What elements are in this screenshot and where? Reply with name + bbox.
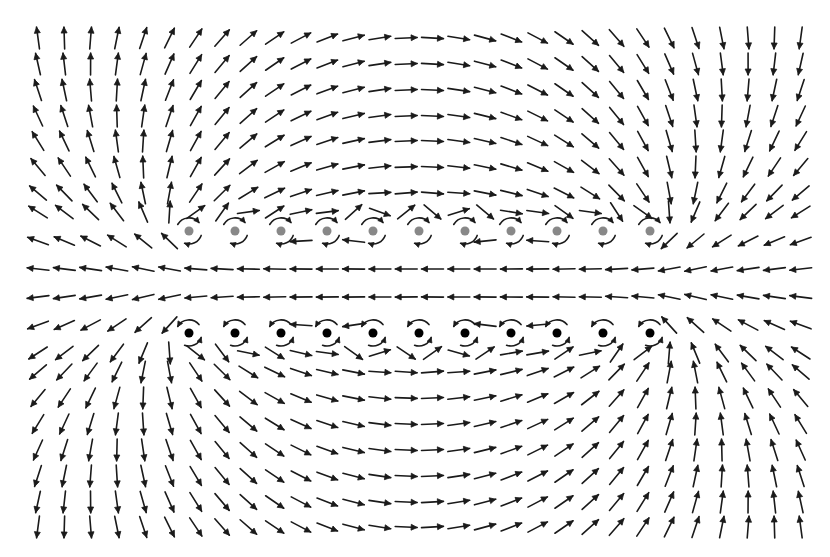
arrow-icon xyxy=(240,520,257,535)
arrow-icon xyxy=(395,61,417,67)
arrow-icon xyxy=(53,265,75,271)
arrow-icon xyxy=(555,58,573,71)
arrow-icon xyxy=(140,491,147,512)
arrow-icon xyxy=(317,421,338,429)
arrow-icon xyxy=(141,439,147,461)
arrow-icon xyxy=(582,57,598,72)
arrow-icon xyxy=(693,79,699,101)
arrow-icon xyxy=(27,295,49,301)
arrow-icon xyxy=(582,520,598,535)
arrow-icon xyxy=(501,164,522,171)
arrow-icon xyxy=(746,516,752,538)
gray-vortex-dot xyxy=(415,227,424,236)
arrow-icon xyxy=(370,208,391,216)
arrow-icon xyxy=(742,363,755,381)
arrow-icon xyxy=(582,443,598,458)
arrow-icon xyxy=(190,55,202,74)
gray-vortex-dot xyxy=(461,227,470,236)
arrow-icon xyxy=(790,237,811,245)
arrow-icon xyxy=(687,318,703,333)
arrow-icon xyxy=(31,159,45,176)
arrow-icon xyxy=(34,53,40,74)
vector-field-diagram xyxy=(0,0,830,557)
arrow-icon xyxy=(796,106,805,126)
arrow-icon xyxy=(691,343,700,363)
arrow-icon xyxy=(369,60,391,66)
arrow-icon xyxy=(187,346,204,360)
arrow-icon xyxy=(501,190,522,197)
arrow-icon xyxy=(474,165,496,171)
vortex-circulation-arcs xyxy=(178,217,663,346)
arrow-icon xyxy=(448,294,470,300)
arrow-icon xyxy=(185,266,207,272)
arrow-icon xyxy=(240,443,256,458)
arrow-icon xyxy=(476,347,494,359)
arrow-icon xyxy=(290,322,312,328)
arrow-icon xyxy=(501,522,521,531)
arrow-icon xyxy=(743,157,753,177)
arrow-icon xyxy=(317,112,338,120)
arrow-icon xyxy=(343,447,364,454)
arrow-icon xyxy=(501,349,523,355)
arc-arrowhead-icon xyxy=(470,217,475,223)
arrow-icon xyxy=(343,499,364,506)
arrow-icon xyxy=(555,347,573,359)
arrow-icon xyxy=(474,294,496,300)
black-vortex-dot xyxy=(461,329,470,338)
arrow-icon xyxy=(719,465,725,487)
arrow-icon xyxy=(665,80,674,101)
arrow-icon xyxy=(528,497,547,507)
arrow-icon xyxy=(664,517,674,537)
arrow-icon xyxy=(395,35,417,41)
arrow-icon xyxy=(316,266,338,272)
arrow-icon xyxy=(713,319,731,331)
arrow-icon xyxy=(291,162,311,171)
arrow-icon xyxy=(88,491,94,513)
arrow-icon xyxy=(369,500,391,506)
arrow-icon xyxy=(113,130,119,152)
arrow-icon xyxy=(28,237,49,245)
black-vortex-dot xyxy=(599,329,608,338)
arrow-icon xyxy=(794,390,808,407)
arrow-icon xyxy=(34,516,40,538)
arrow-icon xyxy=(474,113,495,120)
arrow-icon xyxy=(606,266,628,272)
arrow-icon xyxy=(190,363,202,381)
arrow-icon xyxy=(191,131,202,150)
arrow-icon xyxy=(790,320,811,328)
arc-arrowhead-icon xyxy=(240,217,245,223)
arc-arrowhead-icon xyxy=(424,217,429,223)
arrow-icon xyxy=(692,156,698,178)
arrow-icon xyxy=(477,205,494,219)
arrow-icon xyxy=(397,347,415,359)
arrow-icon xyxy=(290,266,312,272)
arrow-icon xyxy=(369,34,391,40)
arrow-icon xyxy=(422,61,444,67)
arrow-icon xyxy=(140,517,148,538)
field-arrows xyxy=(27,27,812,538)
arrow-icon xyxy=(191,414,202,433)
arrow-icon xyxy=(32,132,44,151)
arrow-icon xyxy=(500,294,522,300)
arrow-icon xyxy=(763,267,785,273)
arrow-icon xyxy=(581,366,600,378)
arrow-icon xyxy=(638,440,649,459)
gray-vortex-dot xyxy=(646,227,655,236)
arrow-icon xyxy=(693,439,699,461)
black-vortex-dot xyxy=(231,329,240,338)
arrow-icon xyxy=(528,33,547,43)
arrow-icon xyxy=(34,466,42,487)
arrow-icon xyxy=(58,158,70,176)
arrow-icon xyxy=(264,294,286,300)
arrow-icon xyxy=(317,33,338,42)
arrow-icon xyxy=(211,266,233,272)
arrow-icon xyxy=(316,351,338,357)
arrow-icon xyxy=(140,156,146,178)
arrow-icon xyxy=(582,83,598,98)
arrow-icon xyxy=(345,205,361,220)
arrow-icon xyxy=(665,492,674,512)
arrow-icon xyxy=(610,133,624,150)
arrow-icon xyxy=(720,491,726,513)
arrow-icon xyxy=(141,105,147,127)
arrow-icon xyxy=(238,351,260,357)
